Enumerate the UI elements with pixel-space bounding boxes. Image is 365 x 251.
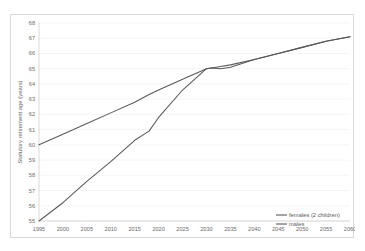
x-tick-label: 2015	[128, 226, 140, 232]
line-chart-plot: 5556575859606162636465666768199520002005…	[11, 15, 355, 239]
x-tick-label: 2005	[81, 226, 93, 232]
x-tick-label: 2020	[152, 226, 164, 232]
y-tick-label: 63	[29, 96, 35, 102]
y-tick-label: 67	[29, 35, 35, 41]
y-tick-label: 56	[29, 203, 35, 209]
chart-figure: 5556575859606162636465666768199520002005…	[10, 14, 354, 238]
y-tick-label: 64	[29, 81, 35, 87]
y-tick-label: 59	[29, 157, 35, 163]
x-tick-label: 2035	[224, 226, 236, 232]
x-tick-label: 2045	[272, 226, 284, 232]
x-tick-label: 1995	[33, 226, 45, 232]
y-tick-label: 57	[29, 188, 35, 194]
y-tick-label: 65	[29, 66, 35, 72]
legend-label-0[interactable]: females (2 children)	[289, 212, 340, 218]
x-tick-label: 2030	[200, 226, 212, 232]
y-tick-label: 60	[29, 142, 35, 148]
y-tick-label: 62	[29, 111, 35, 117]
y-axis-title: Statutory retirement age (years)	[17, 80, 23, 163]
y-tick-label: 61	[29, 127, 35, 133]
y-tick-label: 55	[29, 218, 35, 224]
series-line-0	[39, 37, 350, 221]
x-tick-label: 2055	[320, 226, 332, 232]
y-tick-label: 68	[29, 20, 35, 26]
y-tick-label: 66	[29, 50, 35, 56]
legend-label-1[interactable]: males	[289, 221, 305, 227]
y-tick-label: 58	[29, 172, 35, 178]
x-tick-label: 2000	[57, 226, 69, 232]
x-tick-label: 2010	[105, 226, 117, 232]
x-tick-label: 2025	[176, 226, 188, 232]
x-tick-label: 2040	[248, 226, 260, 232]
series-line-1	[39, 37, 350, 145]
x-tick-label: 2060	[344, 226, 355, 232]
